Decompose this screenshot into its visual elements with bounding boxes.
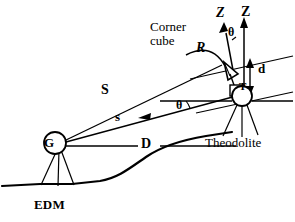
ground-profile-curve (2, 132, 232, 186)
label-theta-bottom: θ (176, 99, 182, 112)
R-curved-leader (186, 50, 225, 66)
corner-cube-label-line1: Corner (150, 20, 186, 34)
corner-cube-level-line (190, 56, 293, 79)
theodolite-tripod-leg-right (247, 105, 258, 135)
s-direction-arrowhead (138, 113, 151, 120)
label-zenith: Z (241, 5, 250, 20)
label-edm-point: G (44, 136, 54, 150)
label-theodolite-point: T (239, 81, 246, 93)
label-edm-station: EDM (34, 198, 65, 212)
label-theodolite-station: Theodolite (205, 136, 261, 150)
corner-cube-label-line2: cube (150, 34, 186, 48)
diagram-canvas (0, 0, 295, 222)
surveying-diagram: Corner cube R Z Z θ d T S s θ D G EDM Th… (0, 0, 295, 222)
label-D: D (141, 137, 151, 152)
label-R: R (196, 41, 205, 56)
edm-tripod-leg-center (58, 150, 59, 186)
d-dimension-arrowhead-top (246, 58, 254, 68)
zenith-prime-axis-arrowhead (219, 22, 228, 33)
edm-tripod-leg-right (61, 150, 74, 185)
edm-tripod-leg-left (41, 150, 57, 185)
corner-cube-label: Corner cube (150, 20, 186, 47)
label-d-offset: d (258, 62, 265, 76)
label-theta-top: θ (228, 26, 234, 39)
label-zenith-prime: Z (216, 6, 225, 21)
label-s: s (115, 110, 120, 124)
line-S-slope-distance (66, 65, 222, 140)
label-S: S (101, 83, 109, 98)
theta-bottom-arc (186, 101, 190, 108)
